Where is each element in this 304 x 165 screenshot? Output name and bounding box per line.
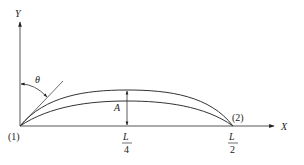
tick-quarter-denominator: 4 [124, 144, 129, 155]
lower-curve [20, 101, 233, 126]
upper-curve [20, 90, 233, 126]
y-axis-label: Y [15, 8, 22, 19]
x-axis-label: X [280, 121, 288, 132]
tick-quarter-numerator: L [122, 131, 129, 142]
tick-half-numerator: L [228, 131, 235, 142]
start-point-label: (1) [8, 131, 20, 143]
tick-half-denominator: 2 [230, 144, 235, 155]
angle-arc [21, 84, 47, 97]
arch-diagram: Y X θ A (1) (2) L 4 L 2 [0, 0, 304, 165]
end-point-label: (2) [232, 112, 244, 124]
angle-label: θ [35, 74, 40, 85]
amplitude-label: A [113, 102, 121, 113]
